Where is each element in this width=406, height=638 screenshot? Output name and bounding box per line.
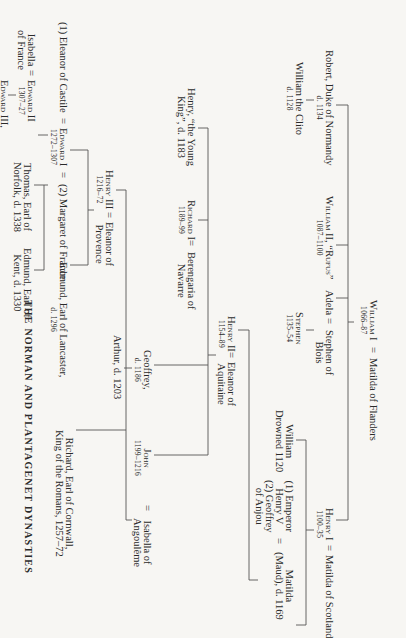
person-stephen-blois: Stephen of Blois xyxy=(314,330,334,375)
page-title: THE NORMAN AND PLANTAGENET DYNASTIES xyxy=(23,300,34,574)
person-eleanor-aquitaine: Eleanor of Aquitaine xyxy=(216,362,236,406)
person-robert: Robert, Duke of Normandy d. 1134 xyxy=(315,50,334,165)
person-eleanor-provence: Eleanor of Provence xyxy=(94,222,114,266)
person-isabella-angouleme: Isabella of Angoulême xyxy=(132,518,152,567)
person-william1: William I 1066–87 xyxy=(359,300,378,341)
marriage-sign: = xyxy=(104,212,114,218)
person-thomas-norfolk: Thomas, Earl of Norfolk, d. 1338 xyxy=(12,162,32,232)
person-adela: Adela xyxy=(324,290,334,315)
person-william2: William II, “Rufus” 1087–1100 xyxy=(315,196,334,280)
person-henry-young-king: Henry, “the Young King”, d. 1183 xyxy=(176,88,196,166)
person-geoffrey: Geoffrey, d. 1186 xyxy=(133,350,152,390)
person-henry1: Henry I 1100–35 xyxy=(315,508,334,540)
person-richard1: Richard I 1189–99 xyxy=(177,200,196,240)
person-henry2: Henry II 1154–89 xyxy=(217,316,236,352)
person-richard-cornwall: Richard, Earl of Cornwall, King of the R… xyxy=(54,430,74,557)
person-edward1: Edward I 1272–1307 xyxy=(49,128,68,166)
marriage-sign: = xyxy=(226,352,236,358)
person-william-clito: William the Clito d. 1128 xyxy=(285,62,304,135)
person-arthur: Arthur, d. 1203 xyxy=(112,335,122,399)
matilda-spouses: (1) Emperor Henry V (2) Geoffrey of Anjo… xyxy=(254,480,294,533)
person-william-drowned: William Drowned 1120 xyxy=(274,410,294,472)
person-matilda-scotland: Matilda of Scotland xyxy=(324,555,334,638)
person-empress-matilda: Matilda (Maud), d. 1169 xyxy=(274,552,294,620)
marriage-sign: = xyxy=(324,545,334,551)
person-matilda-flanders: Matilda of Flanders xyxy=(368,358,378,441)
person-henry3: Henry III 1216–72 xyxy=(95,170,114,209)
person-edward2: Edward II 1307–27 xyxy=(17,80,36,122)
person-isabella-france: Isabella of France xyxy=(16,30,36,70)
marriage-sign: = xyxy=(58,172,68,178)
marriage-sign: = xyxy=(58,118,68,124)
person-edmund-lancaster: Edmund, Earl of Lancaster, d. 1296 xyxy=(49,262,68,377)
marriage-sign: = xyxy=(274,538,284,544)
person-stephen: Stephen 1135–54 xyxy=(285,312,304,345)
person-berengaria: Berengaria of Navarre xyxy=(176,252,196,309)
marriage-sign: = xyxy=(186,240,196,246)
marriage-sign: = xyxy=(142,505,152,511)
marriage-sign: = xyxy=(368,347,378,353)
marriage-sign: = xyxy=(324,318,334,324)
marriage-sign: = xyxy=(26,70,36,76)
person-edward3: Edward III, 1327–77 xyxy=(0,80,8,128)
person-john: John 1199–1216 xyxy=(133,440,152,476)
person-eleanor-castile: (1) Eleanor of Castile xyxy=(58,22,68,113)
